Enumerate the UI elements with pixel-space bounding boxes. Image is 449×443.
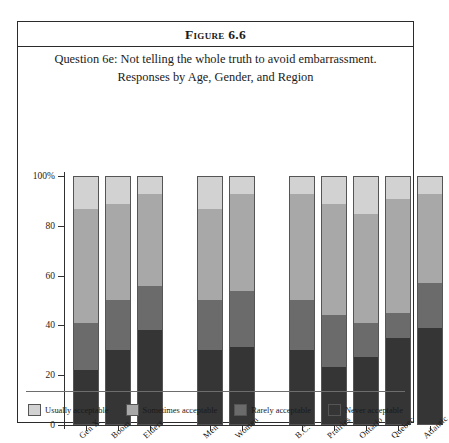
bar-segment: [386, 177, 410, 199]
bar-segment: [290, 194, 314, 300]
chart-legend: Usually acceptableSometimes acceptableRa…: [18, 404, 413, 416]
bar-segment: [138, 194, 162, 285]
bar-segment: [198, 300, 222, 349]
bar-segment: [386, 199, 410, 313]
legend-divider: [26, 391, 405, 392]
stacked-bar[interactable]: [417, 176, 443, 425]
caption-line-1: Question 6e: Not telling the whole truth…: [26, 51, 405, 68]
bar-segment: [74, 177, 98, 209]
bar-segment: [138, 177, 162, 194]
y-axis-tick: [58, 375, 64, 376]
caption-line-2: Responses by Age, Gender, and Region: [26, 68, 405, 86]
bar-segment: [198, 177, 222, 209]
y-axis-tick-label: 40: [46, 320, 56, 330]
legend-swatch: [328, 404, 341, 416]
y-axis-tick-label: 0: [50, 420, 55, 430]
stacked-bar[interactable]: [289, 176, 315, 425]
bar-segment: [418, 283, 442, 327]
figure-caption: Question 6e: Not telling the whole truth…: [18, 47, 413, 89]
stacked-bar[interactable]: [105, 176, 131, 425]
legend-item[interactable]: Never acceptable: [328, 404, 403, 416]
bar-segment: [418, 194, 442, 283]
figure-container: Figure 6.6 Question 6e: Not telling the …: [17, 21, 414, 423]
y-axis-tick-label: 20: [46, 370, 56, 380]
legend-swatch: [126, 404, 139, 416]
legend-item[interactable]: Sometimes acceptable: [126, 404, 218, 416]
y-axis-tick: [58, 325, 64, 326]
bar-segment: [138, 286, 162, 330]
bar-segment: [386, 313, 410, 338]
chart-plot-area: 020406080100% Gen XBoomEldersMenWomenB.C…: [18, 89, 413, 381]
bar-segment: [354, 177, 378, 214]
bar-segment: [322, 315, 346, 367]
bar-segment: [290, 300, 314, 349]
stacked-bar[interactable]: [137, 176, 163, 425]
y-axis-tick-label: 80: [46, 221, 56, 231]
bar-segment: [418, 328, 442, 424]
y-axis-tick-label: 60: [46, 271, 56, 281]
bar-segment: [354, 214, 378, 323]
y-axis-tick-label: 100%: [33, 171, 55, 181]
legend-item[interactable]: Usually acceptable: [28, 404, 108, 416]
legend-label: Never acceptable: [345, 406, 403, 415]
stacked-bar[interactable]: [197, 176, 223, 425]
stacked-bar[interactable]: [385, 176, 411, 425]
stacked-bar[interactable]: [321, 176, 347, 425]
bar-segment: [74, 323, 98, 370]
legend-label: Usually acceptable: [45, 406, 108, 415]
bar-segment: [106, 177, 130, 204]
legend-item[interactable]: Rarely acceptable: [234, 404, 311, 416]
bar-segment: [106, 300, 130, 349]
stacked-bar[interactable]: [353, 176, 379, 425]
y-axis-tick: [58, 425, 64, 426]
stacked-bar[interactable]: [229, 176, 255, 425]
y-axis-tick: [58, 226, 64, 227]
legend-swatch: [28, 404, 41, 416]
y-axis-tick: [58, 176, 64, 177]
bar-segment: [322, 177, 346, 204]
bar-segment: [230, 194, 254, 290]
y-axis-tick: [58, 276, 64, 277]
figure-number-label: Figure 6.6: [18, 22, 413, 46]
legend-label: Rarely acceptable: [251, 406, 311, 415]
stacked-bar[interactable]: [73, 176, 99, 425]
legend-label: Sometimes acceptable: [143, 406, 218, 415]
bar-segment: [290, 177, 314, 194]
bar-segment: [322, 204, 346, 315]
bar-segment: [230, 177, 254, 194]
bar-segment: [198, 209, 222, 300]
legend-swatch: [234, 404, 247, 416]
bar-segment: [106, 204, 130, 300]
bar-segment: [354, 323, 378, 358]
bar-segment: [74, 209, 98, 323]
bar-segment: [230, 291, 254, 348]
y-axis-labels: 020406080100%: [18, 89, 55, 381]
bar-segment: [418, 177, 442, 194]
